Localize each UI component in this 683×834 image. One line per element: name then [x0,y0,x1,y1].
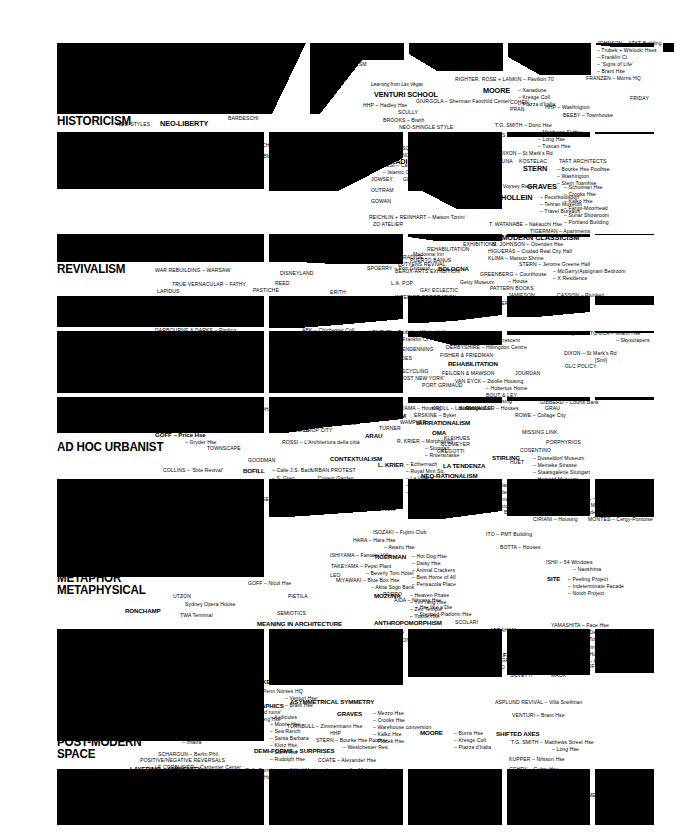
diagram-label: – Gallaratese [489,483,521,488]
diagram-label: AMSTERDAM [329,490,362,495]
diagram-label: DIXON – St Mark's Rd [564,351,617,356]
diagram-label: – Daisy Hse [412,561,441,566]
diagram-label: GLENDENNING [395,347,433,352]
diagram-label: GOFF – Price Hse [155,432,206,438]
diagram-label: – Skyscrapers [616,338,650,343]
diagram-label: CONTEXTUALISM [330,456,382,462]
diagram-label: AALTO – Säynätsalo Town Hall [158,733,231,738]
diagram-label: HIGUERAS – Ciudad Real City Hall [488,249,572,254]
diagram-label: – Washington [557,174,589,179]
diagram-label: – Salk Lab. [238,724,265,729]
diagram-label: 'La Malgrange' [350,768,385,773]
diagram-label: – Brant Hse [208,101,236,106]
diagram-label: ROSSI – L'Architettura della città [282,440,360,445]
diagram-label: JOHNSON – Dumbarton Oaks [155,108,226,113]
diagram-label: COHEN [510,100,529,105]
diagram-label: HHP – Hadley Hse [363,103,407,108]
diagram-label: COATE – Alexander Hse [318,758,376,763]
diagram-label: R. KRIER – Morphology [397,439,453,444]
diagram-label: BEEBY – Townhouse [563,113,613,118]
diagram-label: ROSSI [459,482,478,488]
diagram-label: – Trubek + Wislocki Hses [597,48,657,53]
diagram-label: MOORE [420,730,443,736]
diagram-label: – Matthews St Hse [538,130,582,135]
diagram-label: HOWARD [408,630,432,635]
diagram-label: YAMASHITA – Face Hse [551,623,609,628]
diagram-label: SHIFTED AXES [496,731,540,737]
diagram-label: MOORE [483,87,510,94]
diagram-label: OUTRAM [371,188,394,193]
diagram-label: L.A. POP [391,281,413,286]
diagram-label: – Animal Crackers [412,568,455,573]
diagram-label: ARQUITECTONICA [372,638,419,643]
diagram-label: RANALLI [374,645,396,650]
diagram-label: SCULLY [398,110,418,115]
diagram-label: – Best Home of All [412,575,456,580]
diagram-label: SURRATIONALISM [416,420,470,426]
diagram-label: – St Paul's School [185,373,228,378]
diagram-label: BROOKS – Biwth [383,118,424,123]
diagram-label: REVERSE PERSPECTIVE [117,712,180,717]
diagram-label: T.G. SMITH – Doric Hse [495,123,552,128]
diagram-label: COLLINS – 'Sitte Revival' [163,468,223,473]
diagram-label: TWA Terminal [180,613,213,618]
diagram-label: GOUGH [519,666,539,671]
diagram-label: BARRAGAN [223,629,252,634]
diagram-label: REGIONALISM [213,354,256,360]
diagram-label: COSENTINO [520,448,551,453]
diagram-label: MOORE – Sea Ranch [269,345,321,350]
diagram-label: – Complexity and Contradiction [208,94,273,99]
diagram-label: Covent Garden [318,476,354,481]
diagram-label: ZO ATELIER [373,222,403,227]
diagram-label: YAMASAKI [222,108,248,113]
diagram-label: TERRY – Country Houses [498,301,559,306]
diagram-label: – Naoshima [573,567,601,572]
diagram-label: – Islington [215,335,239,340]
diagram-label: – Yin-Yang Hse [350,800,386,805]
diagram-label: – Nolli's Rome [406,490,440,495]
diagram-label: Sydney Opera House [185,602,236,607]
diagram-label: – Hse like a Die [415,605,452,610]
diagram-label: NEO-RATIONALISM [421,473,477,479]
diagram-label: KOTAS [488,133,505,138]
diagram-label: FUJII – Houses [340,785,377,790]
diagram-label: LAYERING + AMBIGUITY [130,766,201,772]
diagram-label: MOZUNA – Anti-Dwelling Box [318,793,388,798]
diagram-label: – Crooks Hse [373,718,405,723]
diagram-label: TURNER [379,426,401,431]
diagram-label: HOLLEIN [501,194,532,201]
diagram-label: – Wall Hses [191,814,219,819]
diagram-label: ABK – Chichester Coll. [302,328,356,333]
diagram-label: STIRLING [492,455,520,461]
diagram-label: CLOTET & TUSQUETS [368,146,424,151]
diagram-label: MEIER – Athenæum [588,793,636,798]
diagram-label: URBAN PROTEST [311,468,356,473]
diagram-label: CASSON – Plunkett [557,293,604,298]
diagram-label: GARDELLA [167,132,195,137]
diagram-label: – Westchester Res. [343,745,389,750]
diagram-label: REICHLIN + REINHART – Maison Tonini [369,215,465,220]
diagram-label: – Akita Sogo Bank [371,585,414,590]
diagram-label: GIURGOLA – Sherman Fairchild Center [416,99,510,104]
diagram-label: TRUE VERNACULAR – FATHY [172,282,246,287]
diagram-label: – Arcades du Lac [442,140,483,145]
diagram-label: – 'Signs of Life' [597,62,633,67]
diagram-label: VENTURI – N. Penn Nurses HQ [227,689,303,694]
diagram-label: PELLI – Pacific Design Center [313,776,384,781]
diagram-label: – Indeterminate Facade [568,584,624,589]
diagram-label: FRANZEN – Morris HQ [586,76,641,81]
diagram-label: BARCELONA SCHOOL [225,143,281,148]
diagram-label: – Staatsgalerie Stuttgart [533,470,590,475]
diagram-label: – Johansen Hse [283,414,321,419]
diagram-label: – Tokyo Office [585,637,619,642]
diagram-label: PORTMEIRION [155,258,192,263]
diagram-label: CORREA [225,154,247,159]
diagram-label: – Long Hse [538,137,565,142]
diagram-label: – Tiergarten Museum [283,504,333,509]
diagram-label: ANTHROPOMORPHISM [374,620,442,626]
diagram-label: – Rudolph Hse [270,757,305,762]
diagram-label: RUDOLPH – Jewett Center [150,64,214,69]
diagram-label: JOURDAN [515,371,540,376]
diagram-label: MAEKAWA [90,170,116,175]
diagram-label: MISSING LINK [522,430,557,435]
